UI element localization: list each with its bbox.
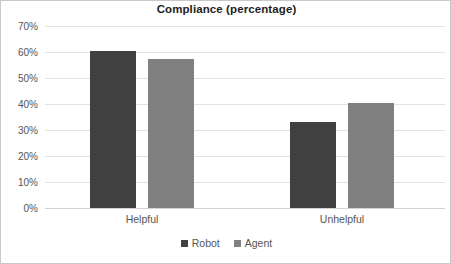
- legend-label: Agent: [245, 237, 272, 249]
- legend-swatch-icon: [181, 240, 188, 247]
- bar-robot-unhelpful[interactable]: [290, 122, 336, 208]
- x-axis-category-label: Helpful: [126, 213, 159, 225]
- legend-item-agent[interactable]: Agent: [234, 237, 272, 249]
- chart-container: Compliance (percentage) RobotAgent 0%10%…: [0, 0, 451, 264]
- bar-robot-helpful[interactable]: [90, 51, 136, 208]
- plot-area: [45, 26, 445, 208]
- chart-title: Compliance (percentage): [1, 3, 451, 15]
- y-axis-tick-label: 10%: [0, 177, 38, 188]
- y-axis-tick-label: 50%: [0, 73, 38, 84]
- y-axis-tick-label: 40%: [0, 99, 38, 110]
- y-axis-tick-label: 70%: [0, 21, 38, 32]
- y-axis-tick-label: 20%: [0, 151, 38, 162]
- legend-swatch-icon: [234, 240, 241, 247]
- y-axis-tick-label: 60%: [0, 47, 38, 58]
- gridline: [45, 26, 445, 27]
- bar-agent-helpful[interactable]: [148, 59, 194, 209]
- bar-agent-unhelpful[interactable]: [348, 103, 394, 208]
- x-axis-category-label: Unhelpful: [320, 213, 364, 225]
- y-axis-tick-label: 0%: [0, 203, 38, 214]
- y-axis-tick-label: 30%: [0, 125, 38, 136]
- legend-label: Robot: [192, 237, 220, 249]
- chart-legend: RobotAgent: [1, 237, 451, 249]
- axis-baseline: [45, 208, 445, 209]
- legend-item-robot[interactable]: Robot: [181, 237, 220, 249]
